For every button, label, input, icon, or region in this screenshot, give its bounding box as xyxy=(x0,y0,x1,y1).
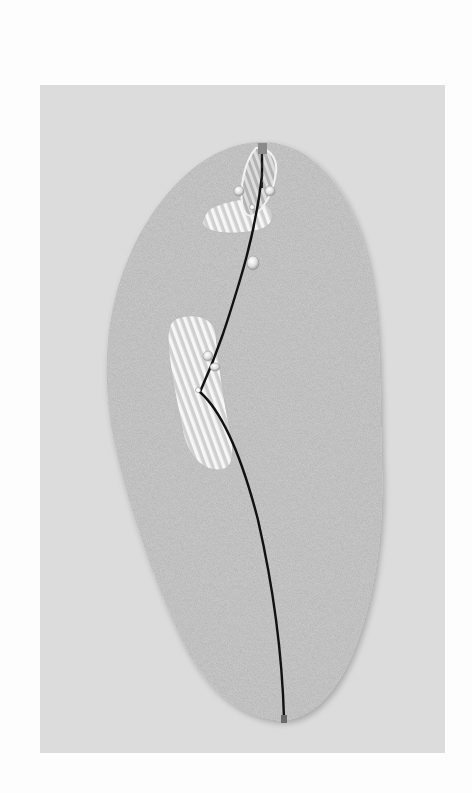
golf-hole-diagram xyxy=(0,0,472,793)
marker-left-green xyxy=(234,186,244,196)
marker-upper-fairway xyxy=(247,256,259,270)
marker-landing xyxy=(196,388,201,393)
marker-right-green xyxy=(265,186,275,196)
flag-pin-icon xyxy=(258,143,267,154)
marker-green-dot xyxy=(250,205,255,210)
tee-box-icon xyxy=(281,715,287,723)
marker-mid-1 xyxy=(203,351,213,361)
marker-mid-2 xyxy=(210,363,220,371)
